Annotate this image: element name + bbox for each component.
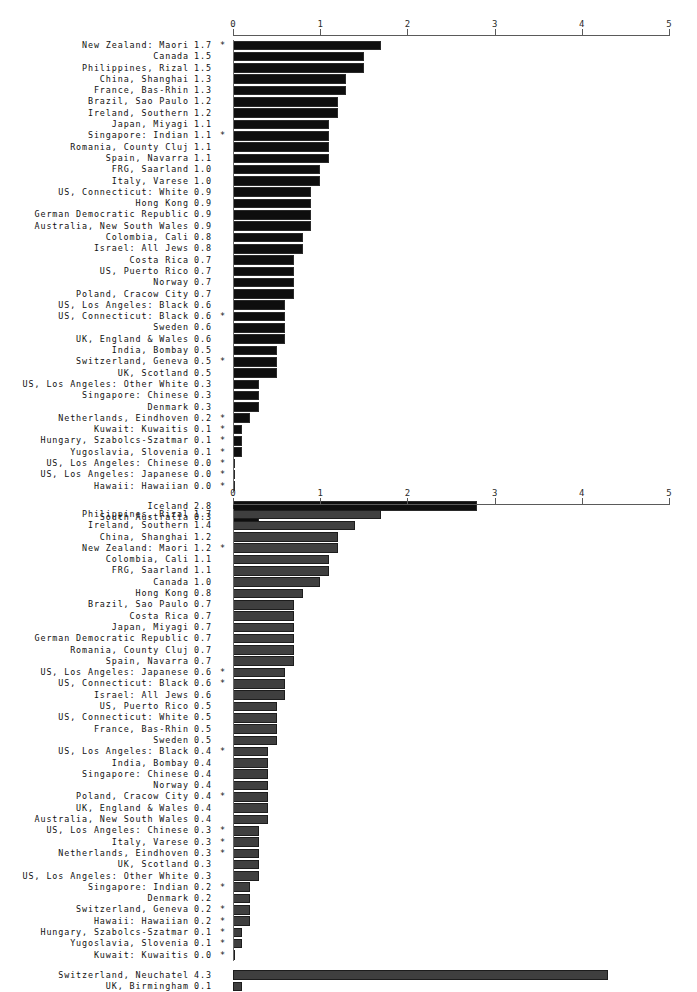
bar-rows-top: New Zealand: Maori1.7*Canada1.5Philippin… [0,40,697,523]
axis-tick-label: 0 [230,19,235,29]
axis-tick [320,29,321,36]
bar-row-value: 0.0 [194,950,216,961]
bar-row: FRG, Saarland1.1 [0,565,697,576]
bar-row-label: US, Los Angeles: Other White [23,379,189,390]
footnote-asterisk: * [220,435,225,446]
bar-row: Sweden0.5 [0,735,697,746]
bar-row-label: Netherlands, Eindhoven [58,413,189,424]
bar-chart-bottom: 012345 Philippines, Rizal1.7Ireland, Sou… [0,478,697,961]
footnote-asterisk: * [220,543,225,554]
bar-track [233,769,669,780]
bar-track [233,232,669,243]
bar [233,815,268,825]
bar-row-value: 0.5 [194,701,216,712]
bar-track [233,859,669,870]
bar [233,781,268,791]
bar-row-value: 1.2 [194,532,216,543]
bar-track [233,678,669,689]
bar-row-value: 0.4 [194,814,216,825]
bar-row-value: 0.7 [194,611,216,622]
bar-track [233,424,669,435]
bar-row-value: 0.4 [194,758,216,769]
bar-row-label: Australia, New South Wales [35,814,190,825]
bar [233,425,242,435]
bar [233,589,303,599]
bar-row-label: Switzerland, Geneva [76,904,189,915]
bar-row-value: 0.5 [194,735,216,746]
bar-track [233,289,669,300]
bar-row-label: India, Bombay [112,345,189,356]
bar [233,131,329,141]
bar-track [233,368,669,379]
axis-tick-label: 3 [492,19,497,29]
bar [233,803,268,813]
bar-row: Spain, Navarra1.1 [0,153,697,164]
axis-tick [320,498,321,505]
axis-tick [669,498,670,505]
bar [233,882,250,892]
footnote-asterisk: * [220,746,225,757]
bar-row: Kuwait: Kuwaitis0.0* [0,950,697,961]
bar-row-label: Canada [153,51,189,62]
bar-row-value: 0.2 [194,413,216,424]
bar-track [233,458,669,469]
bar [233,278,294,288]
axis-tick [669,29,670,36]
bar-row-value: 0.8 [194,243,216,254]
bar-row-value: 0.6 [194,334,216,345]
bar-track [233,255,669,266]
bar [233,713,277,723]
axis-tick [233,29,234,36]
bar [233,577,320,587]
bar-track [233,187,669,198]
bar-row-label: Denmark [147,893,189,904]
bar-row-value: 0.3 [194,825,216,836]
bar [233,849,259,859]
bar-row-value: 0.3 [194,390,216,401]
bar-row: US, Los Angeles: Other White0.3 [0,379,697,390]
bar-row-value: 0.7 [194,633,216,644]
bar [233,120,329,130]
bar [233,532,338,542]
bar-row-value: 0.1 [194,447,216,458]
bar-row-label: Israel: All Jews [94,690,189,701]
axis-tick-label: 5 [666,19,671,29]
bar-row: US, Los Angeles: Black0.4* [0,746,697,757]
bar-row-value: 1.0 [194,577,216,588]
bar-row-value: 0.9 [194,198,216,209]
bar-row-value: 0.7 [194,289,216,300]
axis-tick [582,498,583,505]
bar-row-label: Costa Rica [130,611,189,622]
bar-row-label: China, Shanghai [100,74,189,85]
bar-row-value: 1.0 [194,176,216,187]
bar-track [233,322,669,333]
bar-track [233,611,669,622]
bar-row: China, Shanghai1.3 [0,74,697,85]
bar [233,600,294,610]
bar-row: Brazil, Sao Paulo0.7 [0,599,697,610]
bar [233,447,242,457]
bar-row-label: UK, England & Wales [76,803,189,814]
bar-row-value: 0.6 [194,667,216,678]
bar-row-value: 0.2 [194,882,216,893]
x-axis-bottom: 012345 [0,483,697,505]
bar-row-label: Ireland, Southern [88,108,189,119]
bar [233,555,329,565]
bar [233,758,268,768]
bar [233,543,338,553]
bar-row-label: Italy, Varese [112,837,189,848]
bar-track [233,622,669,633]
bar-row-label: Singapore: Indian [88,130,189,141]
bar-row-label: Colombia, Cali [106,232,189,243]
bar-track [233,599,669,610]
bar-row-value: 0.7 [194,645,216,656]
bar-track [233,735,669,746]
bar-row: Italy, Varese0.3* [0,837,697,848]
bar-row-label: UK, Scotland [118,368,189,379]
bar-row-label: US, Connecticut: White [58,712,189,723]
bar-row-label: New Zealand: Maori [82,543,189,554]
bar-row-value: 0.3 [194,379,216,390]
bar-row-value: 1.1 [194,153,216,164]
bar [233,837,259,847]
bar-row-label: FRG, Saarland [112,164,189,175]
